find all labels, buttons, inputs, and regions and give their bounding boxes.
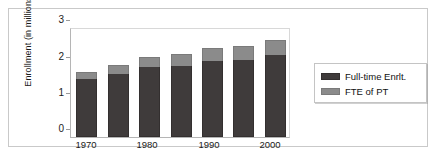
bar-segment-full-time-2000 xyxy=(265,55,286,138)
bar-series-group xyxy=(71,29,289,137)
chart-figure: Enrollment (in millions) 3 2 1 0 1970 19… xyxy=(0,0,439,163)
x-tick-label-1970: 1970 xyxy=(75,140,96,150)
bar-segment-full-time-1995 xyxy=(233,60,254,137)
x-tick-label-1990: 1990 xyxy=(198,140,219,150)
legend-label-full-time: Full-time Enrlt. xyxy=(345,72,406,82)
bar-1995 xyxy=(233,46,254,137)
bar-segment-fte-part-time-1990 xyxy=(202,48,223,62)
bar-segment-fte-part-time-1985 xyxy=(171,54,192,66)
y-tick-mark-3 xyxy=(66,20,70,21)
bar-1985 xyxy=(171,54,192,137)
x-tick-label-2000: 2000 xyxy=(259,140,280,150)
bar-segment-fte-part-time-1970 xyxy=(76,72,97,79)
bar-2000 xyxy=(265,40,286,137)
y-tick-label-2: 2 xyxy=(58,52,64,62)
chart-legend: Full-time Enrlt. FTE of PT xyxy=(314,63,427,103)
x-axis: 1970 1980 1990 2000 xyxy=(70,140,290,156)
plot-area xyxy=(70,28,290,138)
bar-segment-fte-part-time-2000 xyxy=(265,40,286,54)
legend-item-full-time: Full-time Enrlt. xyxy=(321,72,406,82)
bar-segment-fte-part-time-1995 xyxy=(233,46,254,60)
figure-frame: Enrollment (in millions) 3 2 1 0 1970 19… xyxy=(8,8,428,147)
y-axis: 3 2 1 0 xyxy=(9,9,70,157)
y-tick-label-3: 3 xyxy=(58,15,64,25)
legend-swatch-full-time-icon xyxy=(321,73,340,80)
legend-item-fte-part-time: FTE of PT xyxy=(321,87,388,97)
bar-segment-full-time-1985 xyxy=(171,66,192,137)
bar-segment-full-time-1975 xyxy=(108,74,129,137)
bar-segment-fte-part-time-1975 xyxy=(108,65,129,74)
bar-1975 xyxy=(108,65,129,137)
y-tick-label-0: 0 xyxy=(58,124,64,134)
x-tick-label-1980: 1980 xyxy=(136,140,157,150)
legend-swatch-fte-part-time-icon xyxy=(321,88,340,95)
bar-segment-full-time-1980 xyxy=(139,67,160,137)
bar-1980 xyxy=(139,57,160,137)
y-tick-label-1: 1 xyxy=(58,88,64,98)
legend-label-fte-part-time: FTE of PT xyxy=(345,87,388,97)
bar-segment-full-time-1990 xyxy=(202,61,223,137)
bar-segment-full-time-1970 xyxy=(76,79,97,137)
bar-segment-fte-part-time-1980 xyxy=(139,57,160,67)
bar-1990 xyxy=(202,48,223,137)
bar-1970 xyxy=(76,72,97,137)
